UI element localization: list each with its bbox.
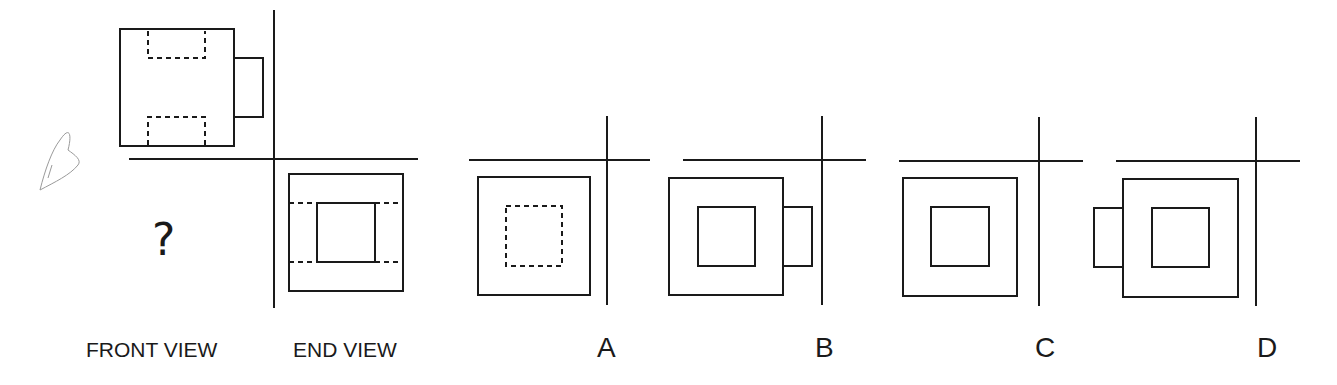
option-a-drawing[interactable]	[469, 116, 650, 305]
option-b-drawing[interactable]	[669, 116, 866, 305]
end-view-drawing	[289, 174, 403, 291]
unknown-view-marker: ?	[152, 214, 175, 265]
front-view-drawing	[120, 29, 263, 146]
option-d-drawing[interactable]	[1094, 117, 1300, 306]
option-b-label[interactable]: B	[815, 332, 834, 364]
option-a-label[interactable]: A	[597, 332, 616, 364]
pencil-annotation-mark	[40, 133, 79, 190]
option-c-label[interactable]: C	[1035, 332, 1055, 364]
option-c-drawing[interactable]	[899, 117, 1083, 306]
option-d-label[interactable]: D	[1257, 332, 1277, 364]
end-view-label: END VIEW	[293, 338, 397, 362]
front-view-label: FRONT VIEW	[86, 338, 217, 362]
orthographic-diagram	[0, 0, 1337, 385]
